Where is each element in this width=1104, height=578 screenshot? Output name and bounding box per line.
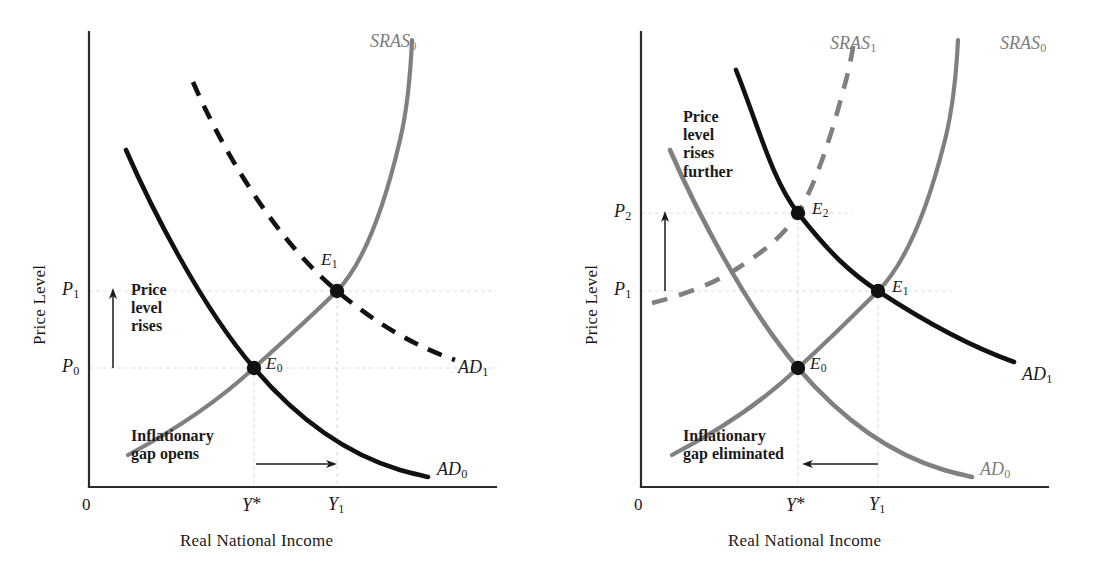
price-level-note: Price level rises	[131, 281, 167, 336]
panel-right-plot	[552, 0, 1104, 578]
point-e0	[247, 361, 261, 375]
x-axis-title: Real National Income	[728, 531, 881, 550]
point-label-e1: E1	[321, 250, 337, 272]
curve-label-ad0: AD0	[437, 459, 467, 482]
y-tick-p1: P1	[62, 279, 79, 302]
origin-label: 0	[82, 495, 91, 514]
economics-figure: Price Level Real National Income 0 P1 P0…	[0, 0, 1104, 578]
axis-lines	[89, 32, 496, 487]
panel-left: Price Level Real National Income 0 P1 P0…	[0, 0, 552, 578]
point-e1	[330, 284, 344, 298]
x-tick-ystar: Y*	[786, 494, 805, 515]
curve-sras0	[672, 40, 958, 455]
y-axis-title: Price Level	[582, 265, 601, 345]
curve-ad1	[193, 82, 455, 360]
y-axis-title: Price Level	[30, 265, 49, 345]
point-label-e0: E0	[810, 354, 826, 376]
curve-label-ad1: AD1	[1022, 364, 1052, 387]
point-e2	[791, 206, 805, 220]
curve-ad1	[736, 70, 1014, 362]
curve-label-sras1: SRAS1	[830, 33, 876, 56]
x-tick-ystar: Y*	[242, 494, 261, 515]
x-axis-title: Real National Income	[180, 531, 333, 550]
point-e0	[791, 361, 805, 375]
x-tick-y1: Y1	[328, 494, 344, 517]
curve-label-ad1: AD1	[458, 357, 488, 380]
gap-note: Inflationary gap eliminated	[683, 427, 784, 463]
income-gap-arrow	[802, 460, 878, 468]
price-level-note: Price level rises further	[683, 108, 733, 181]
curve-label-ad0: AD0	[980, 459, 1010, 482]
y-tick-p1: P1	[614, 279, 631, 302]
x-tick-y1: Y1	[869, 494, 885, 517]
y-tick-p2: P2	[614, 201, 631, 224]
price-rise-arrow	[109, 288, 117, 368]
curve-label-sras0: SRAS0	[370, 31, 416, 54]
point-e1	[871, 284, 885, 298]
income-gap-arrow	[256, 460, 337, 468]
origin-label: 0	[634, 495, 643, 514]
panel-right: Price Level Real National Income 0 P2 P1…	[552, 0, 1104, 578]
point-label-e0: E0	[266, 354, 282, 376]
price-rise-arrow	[661, 211, 669, 291]
gap-note: Inflationary gap opens	[131, 427, 214, 463]
y-tick-p0: P0	[62, 356, 79, 379]
point-label-e1: E1	[892, 277, 908, 299]
curve-label-sras0: SRAS0	[1000, 33, 1046, 56]
axis-lines	[641, 32, 1048, 487]
point-label-e2: E2	[812, 199, 828, 221]
panel-left-plot	[0, 0, 552, 578]
curve-sras0	[128, 40, 412, 455]
